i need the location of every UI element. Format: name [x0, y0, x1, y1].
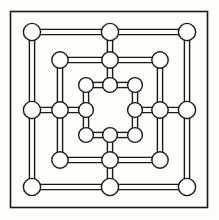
board-point-outer-middle-right[interactable]	[178, 101, 195, 118]
board-point-outer-bottom-left[interactable]	[23, 178, 40, 195]
board-point-inner-middle-right[interactable]	[128, 103, 143, 118]
board-point-middle-middle-right[interactable]	[152, 102, 168, 118]
board-point-middle-top-right[interactable]	[152, 52, 168, 68]
board-point-middle-top-left[interactable]	[52, 52, 68, 68]
board-point-middle-bottom-left[interactable]	[52, 152, 68, 168]
nine-mens-morris-figure	[0, 0, 219, 220]
board-point-inner-top-left[interactable]	[79, 78, 94, 93]
board-point-middle-bottom-right[interactable]	[152, 152, 168, 168]
board-point-outer-bottom-right[interactable]	[178, 178, 195, 195]
board-point-middle-top-middle[interactable]	[102, 52, 118, 68]
board-point-middle-bottom-middle[interactable]	[102, 152, 118, 168]
board-point-middle-middle-left[interactable]	[52, 102, 68, 118]
board-point-outer-top-right[interactable]	[178, 23, 195, 40]
board-point-inner-bottom-right[interactable]	[128, 128, 143, 143]
board-svg	[0, 0, 219, 220]
board-point-outer-top-left[interactable]	[23, 23, 40, 40]
board-point-outer-bottom-middle[interactable]	[101, 178, 118, 195]
board-point-outer-top-middle[interactable]	[101, 23, 118, 40]
board-point-inner-middle-left[interactable]	[79, 103, 94, 118]
board-point-inner-top-right[interactable]	[128, 78, 143, 93]
board-point-outer-middle-left[interactable]	[23, 101, 40, 118]
board-point-inner-bottom-left[interactable]	[79, 128, 94, 143]
board-point-inner-bottom-middle[interactable]	[103, 128, 118, 143]
board-point-inner-top-middle[interactable]	[103, 78, 118, 93]
